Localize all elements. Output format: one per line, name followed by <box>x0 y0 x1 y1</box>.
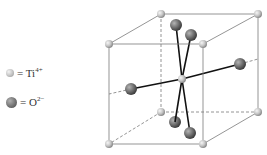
ti-ion-corner <box>199 140 207 148</box>
ti-ion-corner <box>157 10 165 18</box>
ti-ion-corner <box>199 40 207 48</box>
oxygen-ion-right <box>234 58 246 70</box>
oxygen-ion-top-front <box>185 29 197 41</box>
oxygen-ion-bottom-front <box>184 127 196 139</box>
titanium-ions <box>105 10 262 148</box>
ti-ion-corner <box>105 40 113 48</box>
ti-ion-corner <box>157 108 165 116</box>
ti-ion-corner <box>254 108 262 116</box>
oxygen-ion-left <box>125 83 137 95</box>
oxygen-ion-top-back <box>170 19 182 31</box>
ti-ion-corner <box>105 140 113 148</box>
ti-ion-corner <box>254 10 262 18</box>
rutile-unit-cell-diagram <box>0 0 267 155</box>
ti-ion-center <box>178 75 186 83</box>
